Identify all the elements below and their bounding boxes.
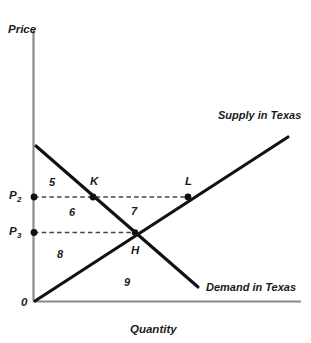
point-marker-l[interactable] [185, 194, 192, 201]
point-label-k: K [90, 176, 98, 188]
point-label-h: H [131, 245, 139, 257]
price-level-label-p2: P2 [9, 190, 21, 202]
price-level-label-p3: P3 [9, 226, 21, 238]
demand-curve[interactable] [36, 146, 198, 287]
point-marker-p2-axis [31, 194, 38, 201]
supply-curve-label: Supply in Texas [218, 110, 301, 121]
price-level-p3-letter: P [9, 225, 17, 237]
point-marker-k[interactable] [90, 194, 97, 201]
x-axis-title: Quantity [130, 324, 177, 336]
region-label-6: 6 [69, 207, 75, 218]
point-marker-p3-axis [31, 229, 38, 236]
origin-label: 0 [21, 297, 27, 309]
region-label-7: 7 [131, 206, 137, 217]
point-label-l: L [185, 176, 192, 188]
supply-curve[interactable] [35, 137, 288, 301]
price-level-p2-letter: P [9, 189, 17, 201]
demand-curve-label: Demand in Texas [206, 282, 296, 293]
price-level-p2-subscript: 2 [17, 195, 21, 204]
price-level-p3-subscript: 3 [17, 231, 21, 240]
supply-demand-figure: Price Quantity 0 P2 P3 K L H Supply in T… [0, 0, 311, 343]
region-label-5: 5 [49, 177, 55, 188]
y-axis-title: Price [8, 24, 36, 36]
region-label-9: 9 [124, 277, 130, 288]
region-label-8: 8 [57, 249, 63, 260]
point-marker-h[interactable] [132, 229, 138, 235]
